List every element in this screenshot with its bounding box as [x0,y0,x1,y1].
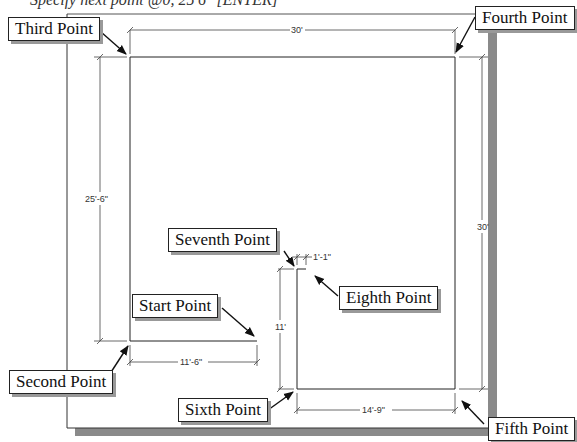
dim-top-width: 30' [291,25,303,35]
arrow-sixth-point [268,392,293,410]
drawing-canvas: Specify next point @0, 25'6" [ENTER] [0,0,577,442]
arrow-fifth-point [462,401,484,424]
callout-third-point: Third Point [8,17,100,41]
callout-seventh-point: Seventh Point [168,228,277,252]
callout-arrows [101,17,484,424]
dim-right-height: 30' [477,222,489,232]
dimension-lines [94,27,488,414]
callout-eighth-point: Eighth Point [339,286,438,310]
arrow-fourth-point [456,17,475,52]
callout-second-point: Second Point [9,370,113,394]
callout-fourth-point: Fourth Point [475,6,575,30]
arrow-seventh-point [284,251,294,266]
callout-fifth-point: Fifth Point [488,417,575,441]
callout-sixth-point: Sixth Point [178,398,268,422]
dim-bottom-segment: 14'-9" [362,405,385,415]
paper-sheet [67,14,497,436]
dim-gap: 1'-1" [313,252,331,262]
arrow-start-point [222,308,254,336]
dim-left-height: 25'-6" [85,194,108,204]
dim-start-segment: 11'-6" [180,357,202,367]
arrow-eighth-point [315,276,338,296]
room-outline [130,57,455,389]
callout-start-point: Start Point [132,294,218,318]
arrow-third-point [101,32,126,54]
dim-inner-height: 11' [275,322,286,332]
